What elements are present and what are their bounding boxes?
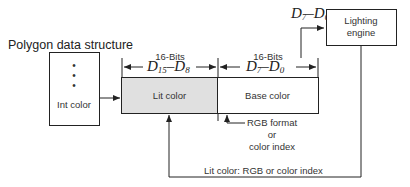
ellipsis-dots: • • • <box>50 61 98 91</box>
lit-bit-range: D15–D8 <box>147 58 190 75</box>
lighting-engine-box: Lighting engine <box>326 9 397 46</box>
lighting-engine-label: Lighting engine <box>327 15 395 39</box>
diagram-title: Polygon data structure <box>8 38 133 52</box>
base-color-field: Base color <box>217 77 319 114</box>
lit-color-field: Lit color <box>121 77 219 114</box>
base-color-label: Base color <box>218 90 317 101</box>
lit-color-label: Lit color <box>122 90 217 101</box>
dot: • <box>50 81 98 91</box>
base-color-note: RGB format or color index <box>236 117 308 153</box>
int-color-label: Int color <box>50 99 98 110</box>
feedback-label: Lit color: RGB or color index <box>204 165 323 176</box>
int-color-box: • • • Int color <box>49 52 100 126</box>
base-bit-range: D7–D0 <box>246 58 284 75</box>
engine-input-range: D7–D0 <box>291 5 329 22</box>
